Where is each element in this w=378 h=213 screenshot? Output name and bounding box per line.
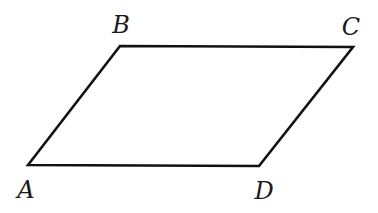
vertex-label-a: A — [15, 176, 34, 204]
vertex-label-d: D — [253, 177, 273, 205]
vertex-label-c: C — [342, 13, 360, 41]
parallelogram-abcd — [28, 46, 353, 166]
parallelogram-diagram: A B C D — [0, 0, 378, 213]
vertex-label-b: B — [111, 11, 130, 39]
